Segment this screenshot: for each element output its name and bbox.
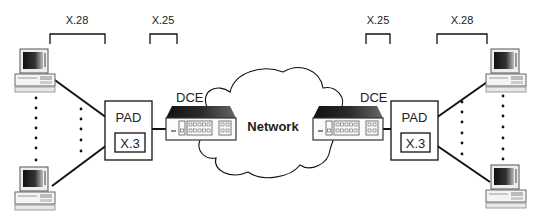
computer-icon: [15, 167, 55, 210]
right-pad-label: PAD: [402, 110, 428, 125]
left-pad-label: PAD: [116, 110, 142, 125]
bracket-right-x25: [366, 34, 390, 44]
right-x3-label: X.3: [406, 136, 426, 151]
right-dce-label: DCE: [360, 90, 388, 105]
left-x3-label: X.3: [120, 136, 140, 151]
label-right-x28: X.28: [451, 14, 474, 26]
terminal-ellipsis-right: [461, 95, 505, 161]
left-pad-box: PAD X.3: [105, 101, 152, 160]
right-dce-switch-icon: [313, 106, 383, 140]
bracket-left-x25: [150, 34, 177, 44]
label-right-x25: X.25: [367, 14, 390, 26]
computer-icon: [486, 49, 526, 92]
label-left-x28: X.28: [66, 14, 89, 26]
network-label: Network: [247, 119, 299, 134]
right-pad-box: PAD X.3: [391, 101, 438, 160]
computer-icon: [15, 49, 55, 92]
bracket-left-x28: [50, 34, 105, 44]
left-dce-switch-icon: [166, 106, 236, 140]
computer-icon: [486, 165, 526, 208]
left-dce-label: DCE: [176, 90, 204, 105]
label-left-x25: X.25: [152, 14, 175, 26]
bracket-right-x28: [437, 34, 487, 44]
terminal-ellipsis-left: [35, 97, 83, 162]
x25-pad-network-diagram: X.28 X.25 X.25 X.28 Network PAD: [0, 0, 539, 223]
